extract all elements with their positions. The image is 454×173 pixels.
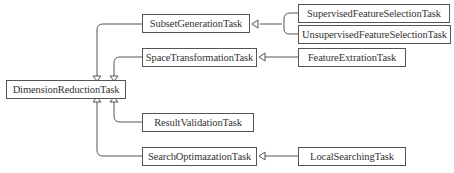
node-label: LocalSearchingTask xyxy=(310,151,394,162)
inheritance-diagram: DimensionReductionTask SubsetGenerationT… xyxy=(0,0,454,173)
arrowhead-subset-children xyxy=(252,20,258,28)
node-label: FeatureExtrationTask xyxy=(308,52,396,63)
edge-subset-to-root xyxy=(97,24,142,76)
node-search-optimazation-task: SearchOptimazationTask xyxy=(142,147,257,166)
node-local-searching-task: LocalSearchingTask xyxy=(298,147,406,166)
node-subset-generation-task: SubsetGenerationTask xyxy=(142,14,250,33)
arrowhead-extraction xyxy=(259,53,265,61)
node-label: SpaceTransformationTask xyxy=(146,52,253,63)
node-dimension-reduction-task: DimensionReductionTask xyxy=(6,80,126,99)
edge-result-to-root xyxy=(114,102,142,122)
edge-space-to-root xyxy=(114,57,142,76)
node-label: SubsetGenerationTask xyxy=(150,18,242,29)
node-result-validation-task: ResultValidationTask xyxy=(142,113,254,132)
node-supervised-feature-selection-task: SupervisedFeatureSelectionTask xyxy=(298,4,450,23)
node-label: ResultValidationTask xyxy=(154,117,242,128)
node-label: DimensionReductionTask xyxy=(13,84,120,95)
node-label: SupervisedFeatureSelectionTask xyxy=(307,8,441,19)
node-label: SearchOptimazationTask xyxy=(148,151,251,162)
arrowhead-local xyxy=(259,152,265,160)
node-label: UnsupervisedFeatureSelectionTask xyxy=(302,29,447,40)
node-space-transformation-task: SpaceTransformationTask xyxy=(142,48,257,67)
node-unsupervised-feature-selection-task: UnsupervisedFeatureSelectionTask xyxy=(298,25,451,44)
edge-search-to-root xyxy=(97,102,142,156)
node-feature-extration-task: FeatureExtrationTask xyxy=(298,48,406,67)
